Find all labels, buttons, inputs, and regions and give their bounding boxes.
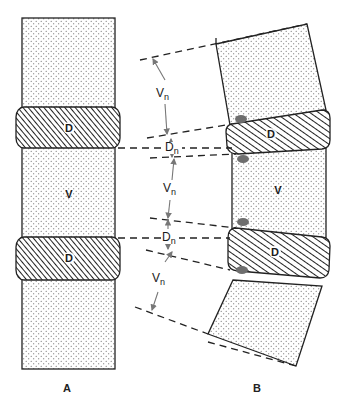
dim-dn-upper: D <box>165 140 174 154</box>
panel-b: D V D <box>208 24 330 366</box>
vertebra-b-label: V <box>274 184 282 196</box>
svg-text:Vn: Vn <box>152 271 165 287</box>
spine-diagram: D V D D V D <box>0 0 350 407</box>
svg-text:Vn: Vn <box>156 86 169 102</box>
disc-b-lower-label: D <box>271 246 279 258</box>
disc-a-upper-label: D <box>65 122 73 134</box>
dim-vn-top: V <box>156 86 164 100</box>
dim-dn-lower: D <box>162 230 171 244</box>
dim-vn-middle: V <box>163 181 171 195</box>
vertebra-b-top <box>216 24 326 125</box>
vertebra-b-bottom <box>208 280 322 366</box>
caption-a: A <box>63 382 71 394</box>
disc-b-upper-label: D <box>267 128 275 140</box>
panel-a: D V D <box>16 18 120 369</box>
dimension-labels: Vn Dn Vn Dn Vn <box>152 86 182 287</box>
vertebra-a-label: V <box>65 188 73 200</box>
disc-a-lower-label: D <box>65 252 73 264</box>
vertebra-a-bottom <box>22 278 115 369</box>
vertebra-a-top <box>22 18 115 110</box>
caption-b: B <box>253 382 261 394</box>
svg-text:Vn: Vn <box>163 181 176 197</box>
dim-vn-bottom: V <box>152 271 160 285</box>
